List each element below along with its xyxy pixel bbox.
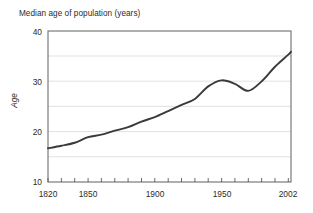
plot-area [0, 0, 313, 213]
chart-figure: Median age of population (years) Age 40 … [0, 0, 313, 213]
